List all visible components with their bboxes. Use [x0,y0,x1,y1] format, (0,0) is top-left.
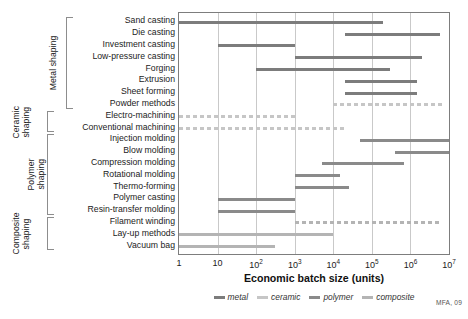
gridline-1e3 [295,13,296,254]
row-label-powder-methods: Powder methods [10,99,178,108]
row-label-investment-casting: Investment casting [10,40,178,49]
bar-low-pressure-casting [295,56,422,59]
x-tick-3: 103 [288,258,302,270]
bar-blow-molding [395,151,449,154]
gridline-1e2 [256,13,257,254]
x-tick-5: 105 [365,258,379,270]
plot-area [178,12,450,255]
row-label-polymer-casting: Polymer casting [10,193,178,202]
economic-batch-size-chart: Metal shapingCeramic shapingPolymer shap… [0,0,468,319]
legend-swatch-metal [214,296,225,299]
bar-powder-methods [333,103,443,106]
bar-conventional-machining [179,127,345,130]
row-label-resin-transfer-molding: Resin-transfer molding [10,205,178,214]
legend-label-polymer: polymer [323,292,353,302]
bar-polymer-casting [218,198,295,201]
bar-sand-casting [179,21,383,24]
x-tick-1: 10 [213,258,223,268]
row-label-extrusion: Extrusion [10,75,178,84]
legend-swatch-polymer [309,296,320,299]
legend-swatch-ceramic [257,296,268,299]
gridline-1e4 [333,13,334,254]
x-tick-7: 107 [442,258,456,270]
row-label-blow-molding: Blow molding [10,146,178,155]
bar-forging [256,68,390,71]
gridline-1e1 [218,13,219,254]
bar-electro-machining [179,115,295,118]
bar-extrusion [345,80,417,83]
row-label-electro-machining: Electro-machining [10,111,178,120]
row-label-sand-casting: Sand casting [10,16,178,25]
x-axis-title: Economic batch size (units) [178,272,450,284]
bar-rotational-molding [295,174,340,177]
row-label-compression-molding: Compression molding [10,158,178,167]
bar-injection-molding [360,139,449,142]
row-label-filament-winding: Filament winding [10,217,178,226]
row-label-die-casting: Die casting [10,28,178,37]
row-label-conventional-machining: Conventional machining [10,123,178,132]
row-label-thermo-forming: Thermo-forming [10,182,178,191]
bar-compression-molding [322,162,405,165]
bar-vacuum-bag [179,245,275,248]
gridline-1e6 [410,13,411,254]
legend-item-metal: metal [214,292,248,302]
row-label-injection-molding: Injection molding [10,134,178,143]
legend-label-ceramic: ceramic [271,292,300,302]
x-tick-6: 106 [404,258,418,270]
x-tick-4: 104 [326,258,340,270]
row-label-lay-up-methods: Lay-up methods [10,229,178,238]
legend-label-composite: composite [376,292,414,302]
gridline-1e5 [372,13,373,254]
x-tick-0: 1 [176,258,181,268]
row-label-sheet-forming: Sheet forming [10,87,178,96]
bar-lay-up-methods [179,233,333,236]
bar-investment-casting [218,44,295,47]
bar-sheet-forming [345,92,417,95]
x-tick-2: 102 [249,258,263,270]
legend-swatch-composite [362,296,373,299]
bar-resin-transfer-molding [218,210,295,213]
row-label-low-pressure-casting: Low-pressure casting [10,52,178,61]
bar-thermo-forming [295,186,349,189]
row-label-vacuum-bag: Vacuum bag [10,241,178,250]
credit-text: MFA, 09 [436,299,462,306]
legend-item-ceramic: ceramic [257,292,300,302]
bar-filament-winding [295,221,441,224]
legend-item-composite: composite [362,292,414,302]
row-label-rotational-molding: Rotational molding [10,170,178,179]
legend: metalceramicpolymercomposite [178,292,450,302]
row-label-forging: Forging [10,64,178,73]
bar-die-casting [345,33,441,36]
legend-label-metal: metal [228,292,248,302]
legend-item-polymer: polymer [309,292,353,302]
